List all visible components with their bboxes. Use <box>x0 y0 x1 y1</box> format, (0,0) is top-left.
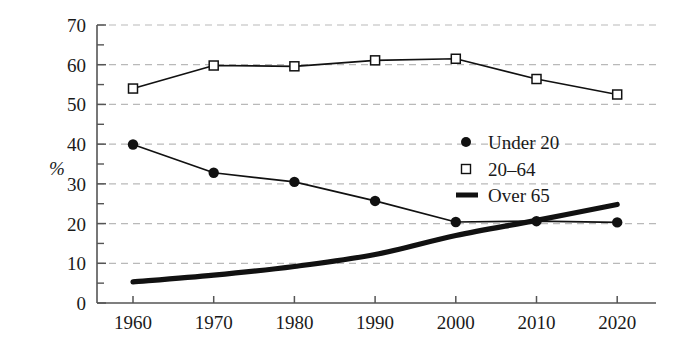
y-tick-label-30: 30 <box>67 174 86 195</box>
data-point-under-20-1990 <box>370 196 380 206</box>
data-point-20-64-1970 <box>209 61 218 70</box>
data-point-20-64-1980 <box>290 62 299 71</box>
data-point-20-64-1990 <box>371 56 380 65</box>
legend-marker-open-square-icon <box>462 165 471 174</box>
data-point-20-64-1960 <box>129 84 138 93</box>
data-point-20-64-2010 <box>532 75 541 84</box>
y-axis-title: % <box>49 158 65 179</box>
y-tick-label-70: 70 <box>67 15 86 36</box>
legend-label-under-20: Under 20 <box>488 132 559 153</box>
x-tick-label-2000: 2000 <box>437 312 475 333</box>
y-tick-label-20: 20 <box>67 214 86 235</box>
y-tick-label-40: 40 <box>67 134 86 155</box>
y-tick-label-10: 10 <box>67 253 86 274</box>
data-point-under-20-2010 <box>531 216 541 226</box>
x-tick-label-1970: 1970 <box>195 312 233 333</box>
data-point-under-20-1970 <box>209 168 219 178</box>
chart-page: 010203040506070 196019701980199020002010… <box>0 0 682 359</box>
legend-marker-filled-circle-icon <box>461 137 471 147</box>
data-point-under-20-2020 <box>612 217 622 227</box>
y-tick-label-60: 60 <box>67 55 86 76</box>
x-tick-label-2020: 2020 <box>598 312 636 333</box>
legend-label-20-64: 20–64 <box>488 159 536 180</box>
data-point-under-20-1980 <box>289 177 299 187</box>
data-point-20-64-2000 <box>451 54 460 63</box>
data-point-20-64-2020 <box>613 90 622 99</box>
y-tick-label-50: 50 <box>67 94 86 115</box>
x-tick-label-2010: 2010 <box>518 312 556 333</box>
legend-label-over-65: Over 65 <box>488 185 550 206</box>
x-tick-label-1980: 1980 <box>275 312 313 333</box>
data-point-under-20-2000 <box>451 217 461 227</box>
y-tick-label-0: 0 <box>77 293 87 314</box>
x-tick-label-1960: 1960 <box>114 312 152 333</box>
chart-background <box>0 0 682 359</box>
data-point-under-20-1960 <box>128 139 138 149</box>
x-tick-label-1990: 1990 <box>356 312 394 333</box>
population-age-distribution-chart: 010203040506070 196019701980199020002010… <box>0 0 682 359</box>
